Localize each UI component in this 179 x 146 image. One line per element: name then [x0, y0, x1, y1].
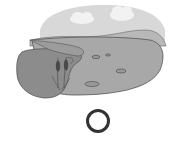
cloud-icon: [110, 6, 134, 21]
cloud-icon: [70, 12, 94, 24]
pond-illustration: [0, 0, 179, 110]
radio-option[interactable]: [86, 109, 110, 133]
